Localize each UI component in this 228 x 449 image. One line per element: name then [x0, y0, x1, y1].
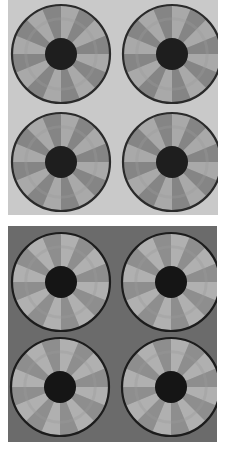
light-background-panel: [8, 0, 218, 215]
dark-background-panel: [8, 226, 217, 442]
wheel-stimulus: [12, 233, 110, 331]
wheel-stimulus: [123, 113, 218, 211]
wheel-grid-light: [8, 0, 218, 215]
wheel-center-dot: [155, 266, 187, 298]
wheel-center-dot: [45, 146, 77, 178]
wheel-stimulus: [122, 233, 217, 331]
wheel-stimulus: [12, 5, 110, 103]
wheel-stimulus: [12, 113, 110, 211]
wheel-center-dot: [45, 38, 77, 70]
wheel-stimulus: [123, 5, 218, 103]
wheel-center-dot: [45, 266, 77, 298]
wheel-center-dot: [155, 371, 187, 403]
wheel-center-dot: [156, 146, 188, 178]
wheel-grid-dark: [8, 226, 217, 442]
wheel-stimulus: [11, 338, 109, 436]
wheel-center-dot: [44, 371, 76, 403]
wheel-center-dot: [156, 38, 188, 70]
wheel-stimulus: [122, 338, 217, 436]
